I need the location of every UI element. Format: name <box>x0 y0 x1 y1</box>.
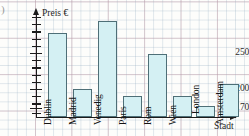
y-axis-minor-tick <box>32 67 41 68</box>
y-axis-minor-tick <box>32 46 41 47</box>
y-tick-label-250: 250 <box>219 48 249 57</box>
x-axis-line <box>36 117 236 118</box>
bar-label-madrid: Madrid <box>68 97 78 125</box>
y-axis-major-tick-250 <box>30 53 42 54</box>
y-axis-major-tick-200 <box>30 89 42 90</box>
y-axis-minor-tick <box>32 113 41 114</box>
bar-label-venedig: Venedig <box>93 94 103 125</box>
y-axis-minor-tick <box>32 75 41 76</box>
bar-label-london: London <box>191 85 201 114</box>
bar-label-paris: Paris <box>118 106 128 125</box>
bar-label-wien: Wien <box>168 105 178 125</box>
bar-label-amsterdam: Amsterdam <box>215 81 225 125</box>
y-axis-minor-tick <box>32 96 41 97</box>
chart-sheet: ) Preis € Stadt 250 200 170 <box>0 0 249 136</box>
y-axis-minor-tick <box>32 82 41 83</box>
y-axis-title: Preis € <box>42 8 68 18</box>
bar-chart-plot: Preis € Stadt 250 200 170 Dublin Madr <box>0 0 249 136</box>
y-axis-minor-tick <box>32 17 41 18</box>
bar-label-rom: Rom <box>143 107 153 125</box>
y-axis-minor-tick <box>32 103 41 104</box>
y-axis-minor-tick <box>32 39 41 40</box>
y-axis-minor-tick <box>32 24 41 25</box>
y-axis-major-tick-170 <box>30 108 42 109</box>
y-axis-minor-tick <box>32 31 41 32</box>
y-axis-arrow-icon <box>33 8 39 15</box>
y-axis-line <box>36 14 37 118</box>
bar-label-dublin: Dublin <box>43 99 53 125</box>
y-axis-minor-tick <box>32 60 41 61</box>
